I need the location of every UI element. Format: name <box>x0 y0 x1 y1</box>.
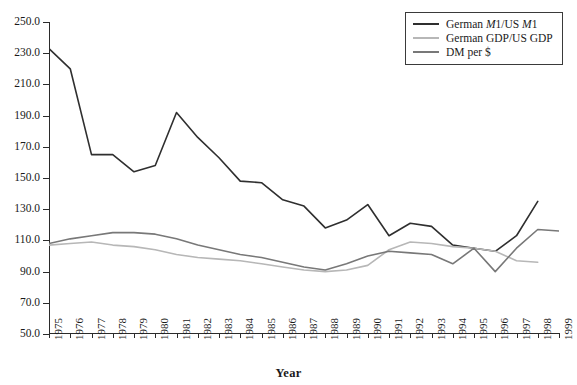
x-tick-label: 1999 <box>563 318 574 340</box>
y-tick-label: 50.0 <box>0 328 40 340</box>
legend-item-dm-per-dollar: DM per $ <box>413 45 553 59</box>
y-tick-label: 210.0 <box>0 78 40 90</box>
y-tick-label: 110.0 <box>0 234 40 246</box>
legend-swatch-german-gdp-us-gdp <box>413 37 439 39</box>
chart-figure: 250.0230.0210.0190.0170.0150.0130.0110.0… <box>0 0 577 385</box>
x-axis-title: Year <box>0 366 577 381</box>
series-line <box>49 229 559 271</box>
legend-swatch-german-m1-us-m1 <box>413 23 439 25</box>
series-lines <box>49 22 559 334</box>
legend-label-dm-per-dollar: DM per $ <box>446 46 491 58</box>
legend-item-german-gdp-us-gdp: German GDP/US GDP <box>413 31 553 45</box>
legend-label-german-m1-us-m1: German M1/US M1 <box>446 18 537 30</box>
x-tick <box>559 333 560 338</box>
y-tick-label: 250.0 <box>0 16 40 28</box>
legend-label-german-gdp-us-gdp: German GDP/US GDP <box>446 32 553 44</box>
y-tick-label: 170.0 <box>0 141 40 153</box>
y-tick-label: 150.0 <box>0 172 40 184</box>
plot-area <box>49 22 559 334</box>
y-tick-label: 90.0 <box>0 266 40 278</box>
y-tick-label: 130.0 <box>0 203 40 215</box>
y-tick-label: 70.0 <box>0 297 40 309</box>
legend-swatch-dm-per-dollar <box>413 51 439 53</box>
legend-item-german-m1-us-m1: German M1/US M1 <box>413 17 553 31</box>
y-tick-label: 190.0 <box>0 110 40 122</box>
legend: German M1/US M1 German GDP/US GDP DM per… <box>405 12 563 65</box>
series-line <box>49 49 538 252</box>
y-tick-label: 230.0 <box>0 47 40 59</box>
